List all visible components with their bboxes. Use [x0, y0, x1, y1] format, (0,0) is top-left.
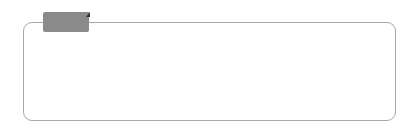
figures-canvas — [0, 0, 420, 130]
